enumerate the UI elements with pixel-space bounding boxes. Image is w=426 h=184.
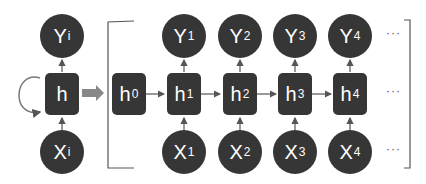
subscript: 1 <box>188 145 195 159</box>
initial-hidden-node: h0 <box>112 73 146 115</box>
continuation-dots-input: ··· <box>386 142 401 156</box>
output-node-1: Y1 <box>162 14 206 58</box>
label: Y <box>229 25 242 48</box>
input-node-4: X4 <box>328 130 372 174</box>
subscript: 2 <box>243 87 250 101</box>
label: Y <box>284 25 297 48</box>
label: h <box>341 83 352 106</box>
subscript: 3 <box>299 29 306 43</box>
subscript: i <box>68 29 71 43</box>
rolled-hidden-node: h <box>45 73 79 115</box>
continuation-dots-output: ··· <box>386 26 401 40</box>
output-node-3: Y3 <box>273 14 317 58</box>
subscript: 1 <box>188 29 195 43</box>
label: X <box>284 141 297 164</box>
label: h <box>120 83 131 106</box>
label: X <box>53 141 66 164</box>
label: h <box>286 83 297 106</box>
label: X <box>229 141 242 164</box>
subscript: 2 <box>244 145 251 159</box>
subscript: 1 <box>187 87 194 101</box>
subscript: 0 <box>132 87 139 101</box>
hidden-node-4: h4 <box>333 73 367 115</box>
label: Y <box>173 25 186 48</box>
input-node-1: X1 <box>162 130 206 174</box>
label: Y <box>53 25 66 48</box>
rolled-output-node: Yi <box>40 14 84 58</box>
label: h <box>56 83 67 106</box>
subscript: 3 <box>298 87 305 101</box>
output-node-4: Y4 <box>328 14 372 58</box>
input-node-3: X3 <box>273 130 317 174</box>
output-node-2: Y2 <box>218 14 262 58</box>
hidden-node-3: h3 <box>278 73 312 115</box>
subscript: 2 <box>244 29 251 43</box>
hidden-node-2: h2 <box>223 73 257 115</box>
subscript: i <box>68 145 71 159</box>
input-node-2: X2 <box>218 130 262 174</box>
label: X <box>339 141 352 164</box>
continuation-dots-hidden: ··· <box>386 84 401 98</box>
subscript: 4 <box>353 87 360 101</box>
subscript: 4 <box>354 145 361 159</box>
label: h <box>175 83 186 106</box>
hidden-node-1: h1 <box>167 73 201 115</box>
subscript: 3 <box>299 145 306 159</box>
rolled-input-node: Xi <box>40 130 84 174</box>
label: X <box>173 141 186 164</box>
label: Y <box>339 25 352 48</box>
subscript: 4 <box>354 29 361 43</box>
label: h <box>231 83 242 106</box>
